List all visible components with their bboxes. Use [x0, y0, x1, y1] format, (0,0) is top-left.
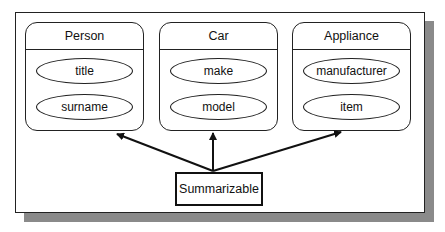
interface-box-summarizable: Summarizable	[175, 172, 263, 206]
arrow-to-person	[117, 134, 213, 171]
arrow-to-appliance	[213, 132, 341, 171]
